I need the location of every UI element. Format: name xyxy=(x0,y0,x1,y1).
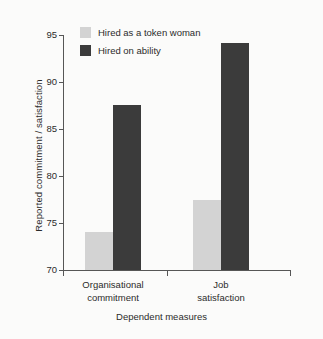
bar xyxy=(221,43,249,270)
y-axis-tick-label: 95 xyxy=(33,29,57,40)
legend: Hired as a token woman Hired on ability xyxy=(80,24,200,60)
x-axis-category-label-line: commitment xyxy=(53,292,173,305)
x-axis-line xyxy=(63,270,291,271)
x-axis-category-label: Organisationalcommitment xyxy=(53,279,173,304)
legend-item-label: Hired as a token woman xyxy=(98,27,200,38)
y-axis-line xyxy=(63,35,64,271)
bar xyxy=(113,105,141,270)
legend-swatch-icon xyxy=(80,45,91,56)
x-axis-category-label: Jobsatisfaction xyxy=(161,279,281,304)
x-axis-category-label-line: Job xyxy=(161,279,281,292)
bar xyxy=(193,200,221,271)
y-axis-tick xyxy=(59,176,64,177)
x-axis-title: Dependent measures xyxy=(0,311,323,322)
x-axis-tick xyxy=(167,271,168,276)
y-axis-tick xyxy=(59,82,64,83)
y-axis-tick xyxy=(59,35,64,36)
bar xyxy=(85,232,113,270)
legend-item-label: Hired on ability xyxy=(98,45,161,56)
y-axis-tick xyxy=(59,129,64,130)
legend-swatch-icon xyxy=(80,27,91,38)
y-axis-tick-label: 75 xyxy=(33,217,57,228)
plot-area xyxy=(63,35,290,270)
x-axis-tick xyxy=(290,271,291,276)
x-axis-category-label-line: Organisational xyxy=(53,279,173,292)
legend-item: Hired as a token woman xyxy=(80,24,200,40)
y-axis-tick-label: 80 xyxy=(33,170,57,181)
x-axis-category-label-line: satisfaction xyxy=(161,292,281,305)
y-axis-title: Reported commitment / satisfaction xyxy=(33,41,44,271)
bar-chart: Reported commitment / satisfaction 70758… xyxy=(0,0,323,339)
x-axis-tick xyxy=(63,271,64,276)
y-axis-tick-label: 70 xyxy=(33,264,57,275)
y-axis-tick-label: 90 xyxy=(33,76,57,87)
y-axis-tick-label: 85 xyxy=(33,123,57,134)
y-axis-tick xyxy=(59,223,64,224)
legend-item: Hired on ability xyxy=(80,42,200,58)
